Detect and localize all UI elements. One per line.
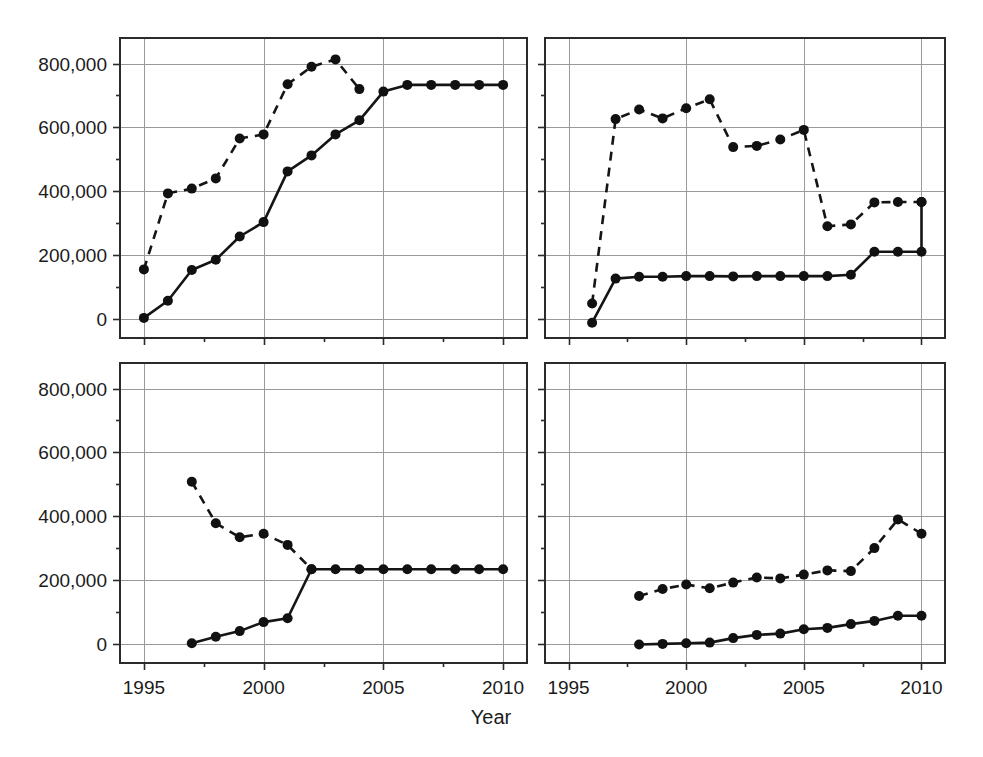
data-point-marker xyxy=(893,247,903,257)
figure-background xyxy=(0,0,983,757)
data-point-marker xyxy=(869,543,879,553)
data-point-marker xyxy=(307,564,317,574)
data-point-marker xyxy=(235,626,245,636)
data-point-marker xyxy=(426,80,436,90)
data-point-marker xyxy=(354,564,364,574)
data-point-marker xyxy=(498,80,508,90)
data-point-marker xyxy=(752,630,762,640)
data-point-marker xyxy=(211,518,221,528)
data-point-marker xyxy=(917,611,927,621)
data-point-marker xyxy=(634,640,644,650)
data-point-marker xyxy=(331,129,341,139)
data-point-marker xyxy=(869,616,879,626)
data-point-marker xyxy=(474,80,484,90)
data-point-marker xyxy=(752,271,762,281)
data-point-marker xyxy=(259,129,269,139)
data-point-marker xyxy=(378,564,388,574)
data-point-marker xyxy=(846,619,856,629)
data-point-marker xyxy=(705,583,715,593)
data-point-marker xyxy=(728,578,738,588)
data-point-marker xyxy=(187,638,197,648)
data-point-marker xyxy=(587,318,597,328)
x-axis-title: Year xyxy=(471,706,512,728)
data-point-marker xyxy=(752,141,762,151)
data-point-marker xyxy=(893,197,903,207)
data-point-marker xyxy=(705,271,715,281)
data-point-marker xyxy=(728,271,738,281)
x-axis-tick-label: 1995 xyxy=(123,677,165,698)
data-point-marker xyxy=(917,197,927,207)
data-point-marker xyxy=(331,564,341,574)
data-point-marker xyxy=(139,264,149,274)
data-point-marker xyxy=(728,633,738,643)
data-point-marker xyxy=(354,84,364,94)
data-point-marker xyxy=(822,221,832,231)
data-point-marker xyxy=(705,94,715,104)
y-axis-tick-label: 600,000 xyxy=(38,442,107,463)
data-point-marker xyxy=(775,629,785,639)
data-point-marker xyxy=(259,529,269,539)
data-point-marker xyxy=(917,247,927,257)
data-point-marker xyxy=(705,638,715,648)
y-axis-tick-label: 800,000 xyxy=(38,379,107,400)
data-point-marker xyxy=(235,532,245,542)
data-point-marker xyxy=(846,566,856,576)
data-point-marker xyxy=(822,271,832,281)
data-point-marker xyxy=(187,265,197,275)
data-point-marker xyxy=(634,272,644,282)
data-point-marker xyxy=(893,514,903,524)
data-point-marker xyxy=(307,62,317,72)
x-axis-tick-label: 2010 xyxy=(482,677,524,698)
data-point-marker xyxy=(775,135,785,145)
data-point-marker xyxy=(658,584,668,594)
x-axis-tick-label: 2000 xyxy=(665,677,707,698)
data-point-marker xyxy=(893,611,903,621)
x-axis-tick-label: 2005 xyxy=(362,677,404,698)
data-point-marker xyxy=(474,564,484,574)
data-point-marker xyxy=(211,632,221,642)
data-point-marker xyxy=(658,113,668,123)
y-axis-tick-label: 800,000 xyxy=(38,54,107,75)
figure-root: 0200,000400,000600,000800,000 0200,00040… xyxy=(0,0,983,757)
data-point-marker xyxy=(799,125,809,135)
four-panel-line-chart: 0200,000400,000600,000800,000 0200,00040… xyxy=(0,0,983,757)
data-point-marker xyxy=(587,299,597,309)
data-point-marker xyxy=(728,142,738,152)
x-axis-tick-label: 1995 xyxy=(547,677,589,698)
data-point-marker xyxy=(775,271,785,281)
data-point-marker xyxy=(681,103,691,113)
data-point-marker xyxy=(611,114,621,124)
data-point-marker xyxy=(846,270,856,280)
data-point-marker xyxy=(163,296,173,306)
data-point-marker xyxy=(211,173,221,183)
data-point-marker xyxy=(402,80,412,90)
data-point-marker xyxy=(681,271,691,281)
data-point-marker xyxy=(658,272,668,282)
data-point-marker xyxy=(799,570,809,580)
data-point-marker xyxy=(259,617,269,627)
y-axis-tick-label: 0 xyxy=(96,309,107,330)
data-point-marker xyxy=(917,529,927,539)
data-point-marker xyxy=(139,313,149,323)
data-point-marker xyxy=(498,564,508,574)
data-point-marker xyxy=(307,150,317,160)
x-axis-tick-label: 2010 xyxy=(900,677,942,698)
data-point-marker xyxy=(634,591,644,601)
x-axis-tick-label: 2005 xyxy=(783,677,825,698)
data-point-marker xyxy=(822,623,832,633)
data-point-marker xyxy=(163,188,173,198)
data-point-marker xyxy=(681,638,691,648)
data-point-marker xyxy=(354,115,364,125)
y-axis-tick-label: 200,000 xyxy=(38,245,107,266)
data-point-marker xyxy=(752,573,762,583)
y-axis-tick-label: 400,000 xyxy=(38,506,107,527)
y-axis-tick-label: 600,000 xyxy=(38,117,107,138)
data-point-marker xyxy=(235,134,245,144)
data-point-marker xyxy=(450,80,460,90)
data-point-marker xyxy=(235,232,245,242)
data-point-marker xyxy=(283,79,293,89)
data-point-marker xyxy=(799,624,809,634)
data-point-marker xyxy=(283,166,293,176)
data-point-marker xyxy=(187,477,197,487)
y-axis-tick-label: 0 xyxy=(96,634,107,655)
